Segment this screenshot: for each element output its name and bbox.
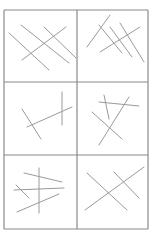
panel-grid bbox=[4, 10, 148, 229]
panel-2-segment-5 bbox=[100, 27, 140, 52]
panel-2-segment-4 bbox=[120, 23, 144, 62]
panel-3 bbox=[22, 92, 72, 139]
panel-3-segment-2 bbox=[27, 107, 72, 127]
panel-6-segment-3 bbox=[114, 172, 139, 198]
panel-5 bbox=[14, 168, 64, 213]
panel-4 bbox=[92, 95, 139, 145]
panel-6 bbox=[85, 167, 144, 210]
panel-3-segment-1 bbox=[22, 109, 41, 139]
panel-6-segment-2 bbox=[85, 167, 144, 210]
panel-2 bbox=[87, 15, 144, 62]
panel-1 bbox=[9, 25, 76, 70]
panel-4-segment-3 bbox=[99, 97, 129, 145]
panel-2-segment-1 bbox=[87, 15, 110, 47]
panel-4-segment-1 bbox=[99, 102, 139, 106]
panel-5-segment-1 bbox=[24, 173, 62, 182]
panel-4-segment-2 bbox=[104, 95, 109, 119]
panel-1-segment-1 bbox=[9, 33, 49, 70]
panel-5-segment-5 bbox=[17, 194, 59, 212]
line-panels-diagram bbox=[0, 0, 151, 234]
panel-5-segment-4 bbox=[16, 185, 29, 198]
